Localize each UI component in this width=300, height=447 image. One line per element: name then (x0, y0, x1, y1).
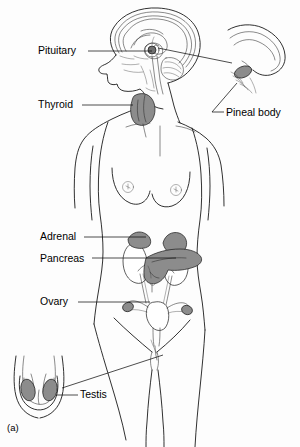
cerebellum (161, 57, 183, 80)
torso-right-side (192, 128, 205, 330)
adrenal-gland-left (128, 232, 151, 248)
groin-left (114, 318, 152, 352)
neck-back-outline (168, 83, 180, 123)
label-pituitary: Pituitary (38, 44, 77, 56)
label-text-group: Pituitary Thyroid Pineal body Adrenal Pa… (38, 44, 282, 400)
groin-to-testis-inset-connector (62, 355, 163, 388)
brainstem (152, 56, 158, 94)
panel-label: (a) (7, 422, 19, 433)
label-thyroid: Thyroid (38, 98, 73, 110)
label-pineal-body: Pineal body (226, 106, 282, 118)
pineal-inset-folia-4 (240, 84, 252, 93)
right-arm-inner (207, 148, 210, 220)
trachea-below-thyroid (143, 124, 146, 137)
ureter-right-2 (163, 276, 169, 305)
right-shoulder-arm-outline (178, 122, 224, 206)
cerebellum-folia-3 (164, 73, 179, 77)
label-adrenal: Adrenal (40, 230, 76, 242)
nipple-right-detail (174, 187, 178, 192)
cerebellum-folia-2 (163, 67, 181, 73)
left-arm-inner (90, 146, 93, 220)
testis-right (41, 378, 59, 402)
palate-line (122, 64, 139, 65)
pineal-inset-inner-2 (234, 40, 275, 60)
scrotal-raphe (38, 390, 39, 404)
pituitary-gland (148, 46, 156, 54)
anatomical-diagram: Pituitary Thyroid Pineal body Adrenal Pa… (0, 0, 300, 447)
pineal-inset-group (228, 25, 285, 93)
pubic-mound (151, 352, 159, 370)
thyroid-group (131, 94, 155, 137)
leg-left-outline (94, 324, 126, 440)
label-testis: Testis (80, 388, 107, 400)
tongue-line (124, 70, 143, 72)
medulla-detail (150, 70, 154, 88)
leg-right-outline (195, 330, 205, 447)
label-ovary: Ovary (40, 295, 69, 307)
label-pancreas: Pancreas (40, 252, 84, 264)
larynx-line (146, 88, 155, 91)
pineal-inset-inner-1 (230, 32, 280, 71)
endocrine-system-figure: Pituitary Thyroid Pineal body Adrenal Pa… (0, 0, 300, 447)
nipple-left-detail (126, 184, 130, 189)
breast-right-outline (152, 172, 190, 207)
breast-left-outline (112, 168, 150, 204)
thyroid-gland (131, 94, 155, 126)
leg-right-inner (158, 370, 164, 447)
broad-ligament-left (130, 310, 147, 312)
torso-left-side (94, 122, 108, 324)
sella-turcica (134, 56, 148, 59)
navel (150, 284, 155, 286)
testis-inset-group (14, 356, 64, 418)
cranial-inner-line-2 (119, 16, 192, 65)
pharynx-line (141, 66, 147, 84)
leg-left-inner (146, 370, 152, 447)
infundibulum (152, 37, 154, 45)
ovary-left (121, 301, 134, 313)
cerebellum-folia-1 (165, 62, 181, 69)
abdominal-organs-group (123, 232, 202, 305)
cerebral-gyrus-2 (141, 29, 163, 34)
pineal-gland (233, 64, 254, 81)
nasal-cavity-detail (120, 56, 134, 59)
pineal-inset-stem (250, 78, 256, 93)
cerebral-gyrus-1 (131, 35, 150, 48)
uterus-body (146, 302, 168, 331)
ovary-right (180, 304, 193, 316)
